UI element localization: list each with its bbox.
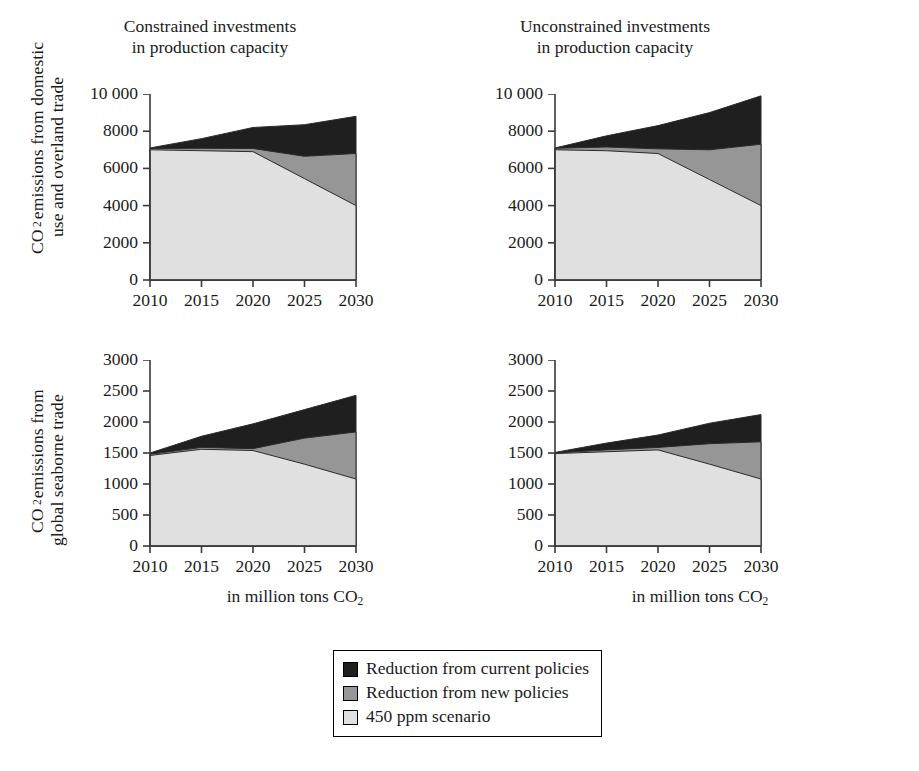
legend-item-label: 450 ppm scenario [366,708,490,726]
y-tick-label-bottom-right-2000: 2000 [508,413,543,431]
legend-swatch-icon [343,662,358,677]
x-tick-label-bottom-right-2010: 2010 [538,558,573,576]
x-tick-label-bottom-right-2030: 2030 [744,558,779,576]
x-tick-label-bottom-right-2020: 2020 [641,558,676,576]
legend-item: Reduction from new policies [343,681,589,705]
x-axis-caption-left: in million tons CO2 [170,586,420,607]
y-tick-label-bottom-right-0: 0 [534,537,543,555]
legend-item-label: Reduction from new policies [366,684,569,702]
x-tick-label-bottom-right-2025: 2025 [692,558,727,576]
legend-item-label: Reduction from current policies [366,660,589,678]
plot-area-bottom-right [542,360,774,560]
y-tick-label-bottom-right-3000: 3000 [508,351,543,369]
legend-swatch-icon [343,710,358,725]
y-tick-label-bottom-right-1000: 1000 [508,475,543,493]
x-tick-label-bottom-right-2015: 2015 [589,558,624,576]
figure-root: CO2 emissions from domestic use and over… [0,0,919,771]
legend-swatch-icon [343,686,358,701]
y-tick-label-bottom-right-500: 500 [517,506,543,524]
y-tick-label-bottom-right-2500: 2500 [508,382,543,400]
x-axis-caption-right: in million tons CO2 [575,586,825,607]
legend: Reduction from current policiesReduction… [333,650,602,737]
legend-item: 450 ppm scenario [343,705,589,729]
y-tick-label-bottom-right-1500: 1500 [508,444,543,462]
legend-item: Reduction from current policies [343,657,589,681]
